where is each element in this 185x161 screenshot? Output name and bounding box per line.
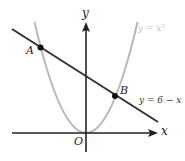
y-axis-label: y [82,6,89,20]
point-b-label: B [120,84,128,97]
origin-label: O [74,135,83,148]
graph-figure: y x O y = x² y = 6 − x A B [0,0,185,161]
line-label: y = 6 − x [139,95,181,105]
x-axis-label: x [161,124,168,138]
line-curve [12,29,158,122]
point-a-marker [38,45,44,51]
point-a-label: A [26,44,34,57]
point-b-marker [112,93,118,99]
parabola-label: y = x² [138,23,165,33]
